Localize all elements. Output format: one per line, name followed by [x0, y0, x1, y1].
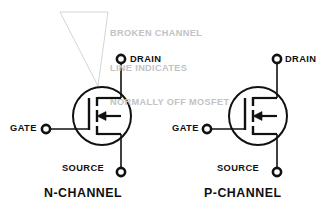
broken-channel-annotation: BROKEN CHANNEL LINE INDICATES NORMALLY O… — [110, 5, 310, 132]
annotation-line-3: NORMALLY OFF MOSFET — [110, 97, 310, 109]
n-channel-substrate-arrow — [97, 112, 106, 121]
p-channel-drain-label: DRAIN — [285, 54, 316, 64]
annotation-line-1: BROKEN CHANNEL — [110, 28, 310, 40]
p-channel-source-label: SOURCE — [217, 163, 259, 173]
annotation-line-2: LINE INDICATES — [110, 63, 310, 75]
n-channel-caption: N-CHANNEL — [44, 186, 122, 200]
p-channel-caption: P-CHANNEL — [204, 186, 281, 200]
n-channel-drain-label: DRAIN — [130, 54, 161, 64]
figure-canvas: BROKEN CHANNEL LINE INDICATES NORMALLY O… — [0, 0, 329, 213]
n-channel-gate-label: GATE — [10, 123, 37, 133]
p-channel-gate-label: GATE — [172, 123, 199, 133]
annotation-leader — [60, 12, 108, 86]
n-channel-source-label: SOURCE — [62, 163, 104, 173]
n-channel-gate-terminal — [42, 125, 50, 133]
n-channel-source-terminal — [117, 168, 125, 176]
p-channel-source-terminal — [273, 168, 281, 176]
